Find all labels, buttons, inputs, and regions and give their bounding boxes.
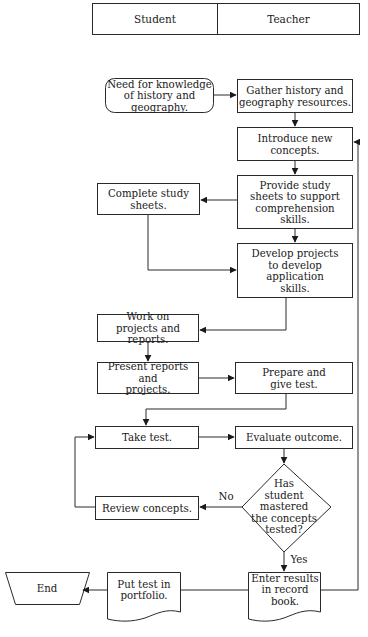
edge-label-no: No [214,490,238,504]
edge-label-yes: Yes [287,553,311,567]
edge-complete-develop [148,214,236,270]
node-end: End [12,573,82,605]
edge-review-take [75,437,95,507]
node-gather: Gather history and geography resources. [238,80,352,113]
node-evaluate: Evaluate outcome. [236,427,352,449]
edge-prepare-take [146,393,286,425]
node-prepare: Prepare and give test. [236,363,352,394]
node-take: Take test. [96,427,198,449]
lane-label-student: Student [93,4,217,35]
lane-label-teacher: Teacher [218,4,359,35]
node-provide: Provide study sheets to support comprehe… [238,176,352,229]
node-put: Put test in portfolio. [108,575,180,605]
node-decision: Has student mastered the concepts tested… [244,478,324,536]
node-enter: Enter results in record book. [249,575,321,605]
node-present: Present reports and projects. [98,363,198,394]
node-introduce: Introduce new concepts. [238,128,352,161]
node-complete: Complete study sheets. [98,184,199,215]
node-develop: Develop projects to develop application … [238,244,352,298]
node-start: Need for knowledge of history and geogra… [106,79,213,113]
node-work: Work on projects and reports. [98,315,198,342]
edge-develop-work [200,297,286,330]
node-review: Review concepts. [96,497,198,520]
